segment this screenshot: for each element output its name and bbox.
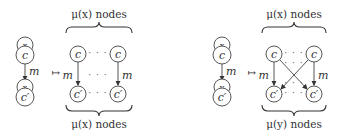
source-node-stack-top: x c — [16, 37, 34, 64]
bottom-dots: · · · — [284, 88, 303, 98]
bottom-brace — [66, 105, 132, 116]
grid-edge-right-label: m — [318, 69, 328, 82]
bottom-brace — [262, 105, 326, 116]
source-top-main-label: c — [22, 49, 28, 62]
top-label: μ(x) nodes — [71, 8, 127, 20]
grid-top-right-label: c — [115, 48, 121, 61]
source-edge-label: m — [29, 65, 39, 78]
grid-top-right-label: c — [311, 48, 317, 61]
middle-dots: · · · — [88, 70, 107, 80]
grid-top-left-label: c — [75, 48, 81, 61]
top-brace — [262, 22, 326, 33]
mapsto-symbol: ↦ — [52, 67, 60, 78]
source-node-stack-bottom: x c′ — [16, 79, 34, 106]
bottom-dots: · · · — [88, 88, 107, 98]
bottom-label: μ(x) nodes — [71, 118, 127, 130]
grid-edge-right-label: m — [122, 69, 132, 82]
source-edge-label: m — [226, 65, 236, 78]
grid-edge-left-label: m — [63, 69, 73, 82]
source-top-main-label: c — [219, 49, 225, 62]
top-dots: · · · — [88, 48, 107, 58]
lower-middle-dots: · · · — [284, 78, 303, 88]
source-bottom-main-label: c′ — [21, 91, 30, 104]
grid-bottom-left-label: c′ — [270, 88, 279, 101]
source-node-stack-bottom: y c′ — [213, 79, 231, 106]
top-brace — [66, 22, 132, 33]
grid-bottom-right-label: c′ — [310, 88, 319, 101]
bottom-label: μ(y) nodes — [266, 118, 322, 130]
upper-middle-dots: · · · — [284, 58, 303, 68]
panel-right: x c m y c′ ↦ μ(x) nodes c c · · · m m · … — [213, 8, 328, 130]
source-node-stack-top: x c — [213, 37, 231, 64]
grid-top-left-label: c — [271, 48, 277, 61]
grid-edge-left-label: m — [259, 69, 269, 82]
top-label: μ(x) nodes — [266, 8, 322, 20]
panel-left: x c m x c′ ↦ μ(x) nodes c c · · · m m · … — [16, 8, 132, 130]
diagram: x c m x c′ ↦ μ(x) nodes c c · · · m m · … — [0, 0, 342, 138]
mapsto-symbol: ↦ — [248, 67, 256, 78]
source-bottom-main-label: c′ — [218, 91, 227, 104]
grid-bottom-left-label: c′ — [74, 88, 83, 101]
top-dots: · · · — [284, 48, 303, 58]
grid-bottom-right-label: c′ — [114, 88, 123, 101]
